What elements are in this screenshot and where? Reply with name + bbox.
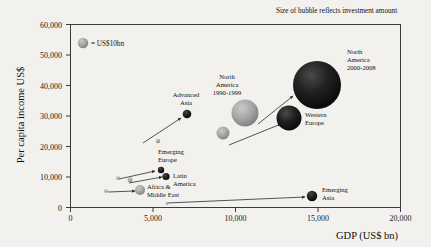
bubble-latin-america-1990s	[128, 178, 133, 183]
bubble-emerging-europe-2000s	[158, 167, 164, 173]
bubble-advanced-asia-1990s	[156, 139, 160, 143]
label-advanced-asia-line2: Asia	[180, 99, 192, 106]
label-western-europe-line1: Western	[305, 111, 327, 118]
y-tick-label-40000: 40,000	[40, 82, 62, 91]
label-latin-america-line2: America	[173, 180, 196, 187]
x-tick-label-10000: 10,000	[225, 214, 247, 223]
y-tick-label-30000: 30,000	[40, 112, 62, 121]
chart-svg: Size of bubble reflects investment amoun…	[0, 0, 431, 247]
bubble-africa-middle-east-2000s	[135, 185, 145, 195]
x-axis-title: GDP (US$ bn)	[336, 230, 399, 242]
y-tick-label-0: 0	[58, 204, 62, 213]
bubble-advanced-asia-2000s	[183, 110, 192, 119]
label-north-america-2000s-line3: 2000-2008	[347, 64, 376, 71]
y-tick-label-50000: 50,000	[40, 51, 62, 60]
x-tick-label-20000: 20,000	[390, 214, 412, 223]
figure-background	[0, 0, 431, 247]
bubble-size-note: Size of bubble reflects investment amoun…	[276, 7, 397, 15]
label-africa-middle-east-line2: Middle East	[147, 191, 179, 198]
bubble-latin-america-2000s	[162, 173, 169, 180]
x-tick-label-5000: 5,000	[144, 214, 162, 223]
label-north-america-1990s-line3: 1990-1999	[213, 89, 242, 96]
y-tick-label-60000: 60,000	[40, 21, 62, 30]
bubble-chart-figure: Size of bubble reflects investment amoun…	[0, 0, 431, 247]
bubble-africa-middle-east-1990s	[104, 189, 108, 193]
bubble-western-europe-1990s	[217, 127, 230, 140]
label-emerging-asia-line2: Asia	[322, 194, 334, 201]
bubble-emerging-asia-1990s	[166, 202, 169, 205]
legend-bubble	[78, 38, 88, 48]
label-africa-middle-east-line1: Africa &	[147, 183, 171, 190]
y-tick-label-10000: 10,000	[40, 173, 62, 182]
bubble-western-europe-2000s	[277, 106, 302, 131]
bubble-north-america-2000s	[293, 61, 341, 109]
legend-bubble-label: = US$10bn	[91, 40, 124, 48]
label-north-america-2000s-line2: America	[347, 56, 370, 63]
label-latin-america-line1: Latin	[173, 172, 188, 179]
x-tick-label-0: 0	[69, 214, 73, 223]
label-emerging-europe-line1: Emerging	[158, 148, 185, 155]
label-advanced-asia-line1: Advanced	[173, 91, 200, 98]
y-tick-label-20000: 20,000	[40, 143, 62, 152]
y-axis-title: Per capita income US$	[15, 67, 26, 164]
bubble-north-america-1990s	[232, 100, 259, 127]
bubble-size-legend: = US$10bn	[78, 38, 125, 48]
label-north-america-2000s-line1: North	[347, 48, 363, 55]
label-western-europe-line2: Europe	[305, 119, 324, 126]
x-tick-label-15000: 15,000	[307, 214, 329, 223]
bubble-emerging-europe-1990s	[116, 176, 120, 180]
bubble-emerging-asia-2000s	[307, 191, 317, 201]
label-north-america-1990s-line1: North	[219, 73, 235, 80]
label-north-america-1990s-line2: America	[216, 81, 239, 88]
label-emerging-europe-line2: Europe	[158, 156, 177, 163]
label-emerging-asia-line1: Emerging	[322, 186, 349, 193]
